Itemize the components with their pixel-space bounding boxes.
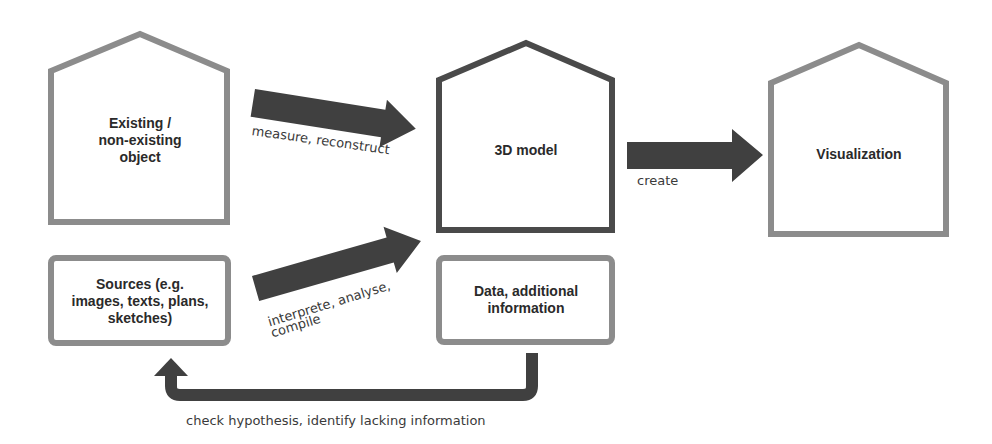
data-label: Data, additional information bbox=[443, 262, 609, 338]
create-edge-label: create bbox=[637, 173, 678, 188]
feedback-arrow-icon bbox=[171, 353, 532, 395]
diagram-shapes bbox=[0, 0, 992, 444]
feedback-arrowhead-icon bbox=[154, 358, 188, 376]
object-label: Existing / non-existing object bbox=[55, 100, 225, 180]
diagram-canvas: Existing / non-existing object Sources (… bbox=[0, 0, 992, 444]
feedback-edge-label: check hypothesis, identify lacking infor… bbox=[186, 413, 486, 428]
visualization-house-shape bbox=[771, 45, 946, 234]
model-label: 3D model bbox=[443, 138, 609, 162]
visualization-label: Visualization bbox=[775, 142, 943, 166]
model-house-shape bbox=[439, 43, 612, 230]
sources-label: Sources (e.g. images, texts, plans, sket… bbox=[55, 262, 225, 340]
